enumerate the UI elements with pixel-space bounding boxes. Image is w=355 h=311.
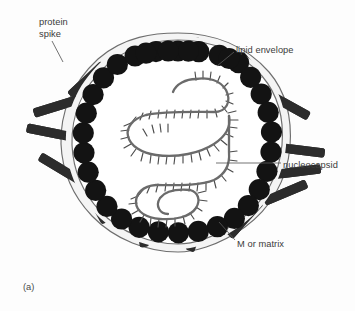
matrix-protein <box>73 142 94 163</box>
matrix-protein <box>261 122 282 143</box>
virus-structure-figure: protein spike lipid envelope nucleocapsi… <box>0 0 355 311</box>
label-lipid-envelope: lipid envelope <box>236 45 294 57</box>
matrix-protein <box>258 102 279 123</box>
panel-caption: (a) <box>23 282 34 292</box>
label-protein-spike: protein spike <box>39 17 68 40</box>
matrix-protein <box>76 103 97 124</box>
label-nucleocapsid: nucleocapsid <box>283 160 338 172</box>
matrix-protein <box>158 40 179 61</box>
matrix-protein <box>78 162 99 183</box>
matrix-protein <box>251 83 272 104</box>
virion-diagram <box>0 0 355 311</box>
matrix-protein <box>178 41 199 62</box>
matrix-protein <box>256 161 277 182</box>
matrix-protein <box>135 43 156 64</box>
matrix-protein <box>85 180 106 201</box>
matrix-protein <box>73 122 94 143</box>
matrix-protein <box>207 216 228 237</box>
label-m-or-matrix: M or matrix <box>237 239 284 251</box>
matrix-protein <box>260 141 281 162</box>
matrix-protein <box>168 222 189 243</box>
leader-line-protein-spike <box>52 41 63 62</box>
matrix-protein <box>188 221 209 242</box>
